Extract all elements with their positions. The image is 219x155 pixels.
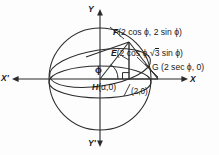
x-negative-axis-label: X' <box>1 74 9 83</box>
point-f-label: F(2 cos ϕ, 2 sin ϕ) <box>113 28 182 37</box>
x-axis-label: X <box>190 75 196 84</box>
point-g-label: G (2 sec ϕ, 0) <box>152 63 204 72</box>
figure-canvas <box>0 0 219 155</box>
leader-line-two-zero <box>124 84 130 96</box>
angle-phi-label: ϕ <box>95 66 102 75</box>
x-axis-arrow-right <box>181 76 188 82</box>
point-e-label: E(2 cos ϕ,√3 sin ϕ) <box>111 48 183 58</box>
point-e-coords-pre: (2 cos ϕ, <box>117 48 150 58</box>
point-e-coords-post: sin ϕ) <box>159 48 182 58</box>
right-angle-marker <box>123 73 130 79</box>
point-h-coords: (α,0) <box>98 82 116 92</box>
point-h-label: H(α,0) <box>92 83 116 92</box>
geometry-figure: Y Y' X X' ϕ F(2 cos ϕ, 2 sin ϕ) E(2 cos … <box>0 0 219 155</box>
x-axis-arrow-left <box>12 76 19 82</box>
point-g-text: G (2 sec ϕ, 0) <box>152 62 204 72</box>
y-axis-arrow-down <box>97 140 103 147</box>
x-intercept-label: (2,0) <box>131 88 148 96</box>
y-negative-axis-label: Y' <box>88 139 96 148</box>
point-f-coords: (2 cos ϕ, 2 sin ϕ) <box>118 27 182 37</box>
y-axis-label: Y <box>88 5 94 14</box>
y-axis-arrow-up <box>97 9 103 16</box>
